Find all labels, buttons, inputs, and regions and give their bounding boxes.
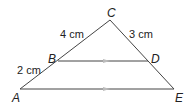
point-label-c: C bbox=[107, 6, 116, 20]
measure-cb: 4 cm bbox=[60, 28, 84, 40]
point-label-b: B bbox=[48, 52, 56, 66]
triangle-diagram: C B D A E 4 cm 3 cm 2 cm bbox=[0, 0, 193, 109]
parallel-arrow-icon-ae bbox=[103, 87, 110, 91]
point-label-e: E bbox=[175, 91, 184, 105]
point-label-a: A bbox=[11, 91, 20, 105]
point-label-d: D bbox=[151, 52, 160, 66]
measure-ba: 2 cm bbox=[17, 64, 41, 76]
measure-cd: 3 cm bbox=[129, 28, 153, 40]
parallel-arrow-icon-bd bbox=[103, 59, 110, 63]
